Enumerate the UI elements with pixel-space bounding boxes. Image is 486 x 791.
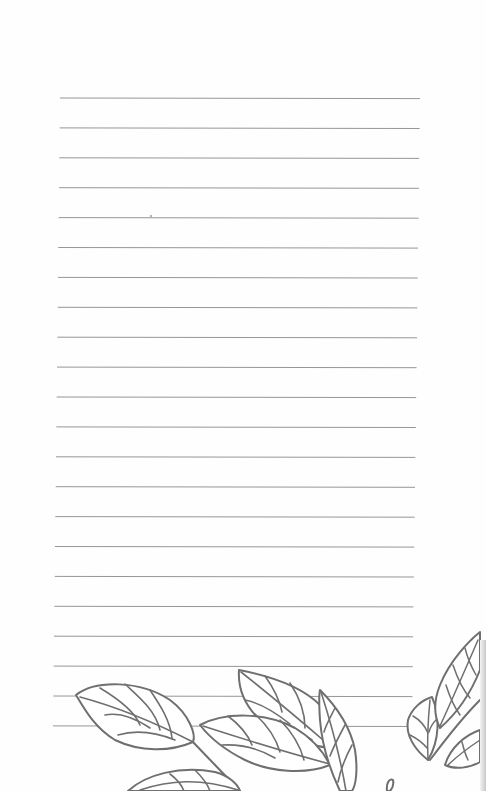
leaf-small-right-icon bbox=[407, 697, 437, 760]
leaf-tall-narrow-icon bbox=[319, 690, 356, 791]
leaf-illustration bbox=[0, 0, 486, 791]
page-edge-shadow bbox=[480, 640, 486, 791]
notebook-page bbox=[0, 0, 486, 791]
leaf-right-lower-icon bbox=[445, 730, 480, 768]
leaf-left-icon bbox=[76, 684, 194, 749]
leaf-right-tall-icon bbox=[435, 632, 480, 728]
leaf-bud-icon bbox=[387, 779, 393, 791]
